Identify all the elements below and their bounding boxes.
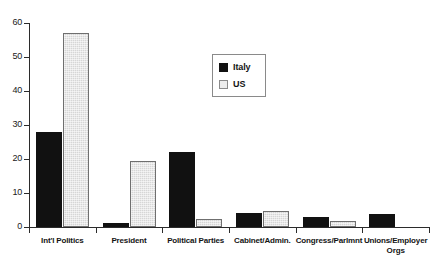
bar-italy-0 [36, 132, 62, 227]
x-axis-label-line2: Orgs [354, 246, 436, 256]
x-axis-tick [96, 227, 97, 233]
bar-chart: 0102030405060 Int'l PoliticsPresidentPol… [0, 0, 436, 273]
legend-swatch-us [219, 80, 228, 89]
x-axis-label-line1: Unions/Employer [364, 236, 428, 245]
bar-us-0 [63, 33, 89, 227]
x-axis-tick [229, 227, 230, 233]
x-axis-tick [162, 227, 163, 233]
bar-us-1 [130, 161, 156, 227]
y-axis-tick-label: 30 [0, 120, 22, 129]
y-axis-tick-label-text: 20 [0, 154, 22, 163]
bar-us-2 [196, 219, 222, 228]
y-axis-tick-label: 50 [0, 52, 22, 61]
y-axis-tick-label: 20 [0, 154, 22, 163]
legend-swatch-italy [219, 63, 228, 72]
y-axis-tick-label-text: 30 [0, 120, 22, 129]
y-axis-tick-label-text: 40 [0, 86, 22, 95]
y-axis-tick-label: 60 [0, 18, 22, 27]
y-axis-tick-label-text: 50 [0, 52, 22, 61]
legend: Italy US [212, 54, 266, 97]
x-axis-tick [362, 227, 363, 233]
x-axis-tick [429, 227, 430, 233]
y-axis-tick-label: 10 [0, 188, 22, 197]
y-axis-tick-label-text: 60 [0, 18, 22, 27]
bar-italy-4 [303, 217, 329, 227]
x-axis-label-line1: Political Parties [167, 236, 224, 245]
legend-label-us: US [233, 80, 245, 89]
legend-item-italy: Italy [219, 62, 251, 73]
x-axis-label-line1: Cabinet/Admin. [234, 236, 291, 245]
y-axis-tick-label: 40 [0, 86, 22, 95]
x-axis-tick [296, 227, 297, 233]
y-axis-tick-label-text: 10 [0, 188, 22, 197]
legend-label-italy: Italy [233, 63, 251, 72]
bar-italy-5 [369, 214, 395, 227]
x-axis-tick [29, 227, 30, 233]
legend-item-us: US [219, 79, 245, 90]
x-axis-label-5: Unions/EmployerOrgs [354, 236, 436, 256]
bar-us-3 [263, 211, 289, 227]
y-axis-tick-label: 0 [0, 222, 22, 231]
bar-italy-3 [236, 213, 262, 227]
x-axis-label-line1: Congress/Parlmnt [296, 236, 363, 245]
bar-us-4 [330, 221, 356, 227]
x-axis-label-line1: President [111, 236, 146, 245]
x-axis-label-line1: Int'l Politics [41, 236, 83, 245]
y-axis-tick-label-text: 0 [0, 222, 22, 231]
bar-italy-1 [103, 223, 129, 227]
bar-italy-2 [169, 152, 195, 227]
